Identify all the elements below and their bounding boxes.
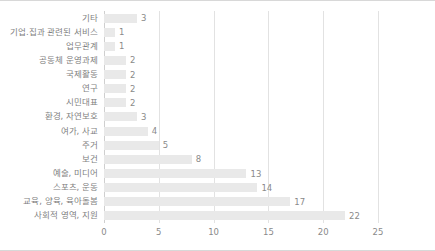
bar — [104, 197, 290, 206]
bar — [104, 56, 126, 65]
category-label: 공동체 운영과제 — [0, 54, 98, 67]
bar-value-label: 1 — [119, 25, 124, 39]
bar-row: 보건8 — [104, 152, 378, 166]
category-label: 예술, 미디어 — [0, 167, 98, 180]
bar-row: 스포츠, 운동14 — [104, 181, 378, 195]
bar-row: 여가, 사교4 — [104, 124, 378, 138]
bar-row: 연구2 — [104, 82, 378, 96]
bar-row: 주거5 — [104, 138, 378, 152]
category-label: 교육, 양육, 육아돌봄 — [0, 195, 98, 208]
bar — [104, 14, 137, 23]
bar-value-label: 13 — [250, 167, 261, 181]
bar-value-label: 8 — [196, 152, 201, 166]
x-tick-label-10: 10 — [208, 227, 219, 237]
bar — [104, 70, 126, 79]
bar-chart-figure: 기타3기업.집과 관련된 서비스1업무관계1공동체 운영과제2국제활동2연구2시… — [0, 0, 435, 251]
bar-row: 공동체 운영과제2 — [104, 53, 378, 67]
bar-row: 예술, 미디어13 — [104, 166, 378, 180]
category-label: 환경, 자연보호 — [0, 110, 98, 123]
bar-row: 기업.집과 관련된 서비스1 — [104, 25, 378, 39]
bar — [104, 141, 159, 150]
plot-area: 기타3기업.집과 관련된 서비스1업무관계1공동체 운영과제2국제활동2연구2시… — [104, 11, 378, 223]
bar — [104, 127, 148, 136]
bar-row: 시민대표2 — [104, 96, 378, 110]
bar — [104, 169, 246, 178]
x-tick-label-0: 0 — [101, 227, 106, 237]
bar-row: 기타3 — [104, 11, 378, 25]
bar — [104, 183, 257, 192]
bar — [104, 84, 126, 93]
category-label: 업무관계 — [0, 40, 98, 53]
bar-value-label: 2 — [130, 82, 135, 96]
bar — [104, 42, 115, 51]
category-label: 사회적 영역, 지원 — [0, 209, 98, 222]
bar — [104, 28, 115, 37]
bar-value-label: 14 — [261, 181, 272, 195]
category-label: 기업.집과 관련된 서비스 — [0, 26, 98, 39]
bar-row: 환경, 자연보호3 — [104, 110, 378, 124]
x-tick-label-20: 20 — [318, 227, 329, 237]
category-label: 국제활동 — [0, 68, 98, 81]
x-tick-label-15: 15 — [263, 227, 274, 237]
category-label: 연구 — [0, 82, 98, 95]
category-label: 주거 — [0, 139, 98, 152]
bar-value-label: 3 — [141, 11, 146, 25]
bar-row: 업무관계1 — [104, 39, 378, 53]
bar — [104, 98, 126, 107]
category-label: 스포츠, 운동 — [0, 181, 98, 194]
bar-value-label: 17 — [294, 195, 305, 209]
category-label: 보건 — [0, 153, 98, 166]
bar-value-label: 2 — [130, 53, 135, 67]
bar — [104, 112, 137, 121]
bar-value-label: 22 — [349, 209, 360, 223]
gridline-25 — [378, 11, 379, 223]
bar — [104, 155, 192, 164]
category-label: 여가, 사교 — [0, 125, 98, 138]
bar-value-label: 2 — [130, 68, 135, 82]
bar-row: 사회적 영역, 지원22 — [104, 209, 378, 223]
bar-value-label: 2 — [130, 96, 135, 110]
x-tick-label-25: 25 — [373, 227, 384, 237]
bar-row: 교육, 양육, 육아돌봄17 — [104, 195, 378, 209]
category-label: 시민대표 — [0, 96, 98, 109]
bar-value-label: 5 — [163, 138, 168, 152]
x-tick-label-5: 5 — [156, 227, 161, 237]
bar-row: 국제활동2 — [104, 68, 378, 82]
bar — [104, 211, 345, 220]
bar-value-label: 1 — [119, 39, 124, 53]
bar-value-label: 3 — [141, 110, 146, 124]
x-axis: 0510152025 — [104, 227, 378, 243]
bar-value-label: 4 — [152, 124, 157, 138]
category-label: 기타 — [0, 12, 98, 25]
